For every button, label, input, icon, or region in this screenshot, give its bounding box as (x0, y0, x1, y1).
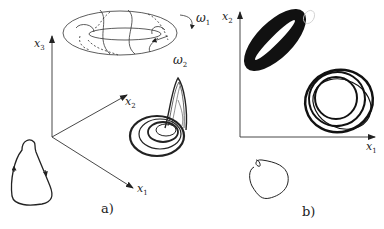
x1-axis (52, 137, 133, 188)
caption-a: a) (101, 201, 114, 216)
torus-projection (234, 0, 316, 81)
omega1-label: ω1 (196, 11, 210, 27)
panel-a: x3 x2 x1 ω1 ω2 (11, 10, 210, 216)
caption-b: b) (302, 204, 315, 219)
limit-cycle-b (250, 160, 289, 199)
x2-label-b: x2 (222, 10, 233, 25)
axes-3d (52, 36, 133, 188)
omega2-label: ω2 (173, 53, 187, 69)
torus (63, 10, 177, 55)
omega1-rotation-arrow (180, 15, 192, 27)
x1-label: x1 (137, 182, 148, 197)
panel-b: x2 x1 b) (222, 0, 380, 219)
strange-attractor (130, 78, 187, 156)
x1-label-b: x1 (366, 140, 377, 155)
x2-axis (52, 95, 127, 137)
x2-label: x2 (125, 95, 136, 110)
x3-label: x3 (34, 37, 45, 52)
attractor-projection (298, 62, 380, 139)
phase-portrait-diagram: x3 x2 x1 ω1 ω2 (0, 0, 384, 229)
